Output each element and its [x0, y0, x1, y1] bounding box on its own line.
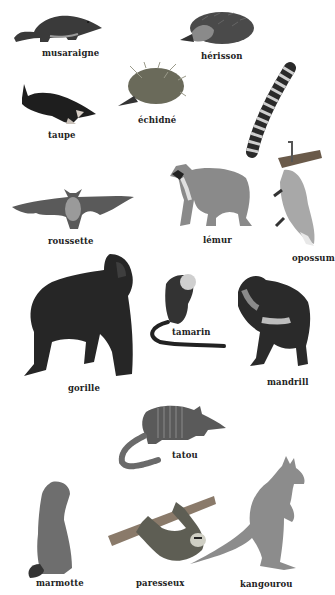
label-lemur: lémur — [203, 235, 232, 245]
opossum-illustration — [262, 140, 326, 248]
label-echidne: échidné — [138, 115, 176, 125]
label-opossum: opossum — [292, 253, 335, 263]
label-musaraigne: musaraigne — [42, 48, 99, 58]
label-marmotte: marmotte — [36, 578, 84, 588]
mole-illustration — [18, 80, 98, 126]
label-kangourou: kangourou — [240, 579, 293, 589]
mandrill-illustration — [234, 272, 314, 370]
label-tamarin: tamarin — [172, 327, 211, 337]
label-taupe: taupe — [48, 130, 75, 140]
kangaroo-illustration — [188, 454, 310, 576]
label-gorille: gorille — [68, 383, 100, 393]
tamarin-illustration — [148, 270, 230, 350]
hedgehog-illustration — [178, 10, 256, 48]
gorilla-illustration — [22, 252, 137, 382]
fruit-bat-illustration — [12, 185, 134, 230]
label-herisson: hérisson — [201, 51, 243, 61]
marmot-illustration — [24, 480, 80, 578]
label-roussette: roussette — [48, 236, 93, 246]
label-paresseux: paresseux — [136, 578, 184, 588]
label-mandrill: mandrill — [267, 377, 309, 387]
shrew-illustration — [10, 8, 105, 48]
echidna-illustration — [116, 62, 186, 110]
ring-tailed-lemur-illustration — [168, 160, 258, 230]
